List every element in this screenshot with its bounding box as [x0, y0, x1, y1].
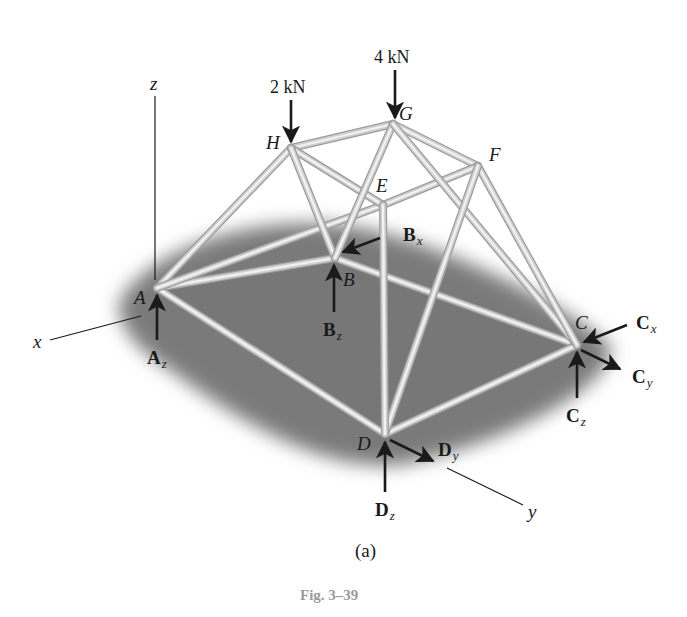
node-label-C: C: [575, 313, 588, 332]
member-ED: [383, 205, 385, 434]
reaction-symbol: C: [636, 312, 650, 333]
reaction-subscript: y: [453, 448, 459, 463]
node-label-G: G: [399, 104, 413, 123]
member-HG: [291, 124, 393, 148]
reaction-subscript: z: [390, 508, 395, 523]
reaction-subscript: x: [651, 321, 657, 336]
subfigure-label: (a): [355, 541, 376, 560]
reaction-label-Cx: Cx: [636, 313, 657, 335]
node-label-E: E: [376, 176, 388, 195]
reaction-subscript: z: [162, 356, 167, 371]
node-label-H: H: [266, 133, 280, 152]
reaction-subscript: y: [647, 375, 653, 390]
reaction-symbol: D: [438, 439, 452, 460]
truss-diagram: [0, 0, 687, 617]
reaction-symbol: B: [323, 319, 336, 340]
node-label-F: F: [489, 145, 501, 164]
reaction-symbol: A: [147, 347, 161, 368]
space-truss-figure: z x y A B C D E F G H 2 kN 4 kN Az Bz Bx…: [0, 0, 687, 617]
reaction-label-Dz: Dz: [375, 500, 395, 522]
reaction-symbol: C: [566, 405, 580, 426]
node-label-D: D: [357, 434, 371, 453]
y-axis-line: [447, 468, 523, 505]
reaction-subscript: x: [417, 233, 423, 248]
ground-shadow: [119, 223, 611, 465]
figure-caption: Fig. 3–39: [300, 588, 358, 603]
reaction-symbol: D: [375, 499, 389, 520]
node-label-B: B: [343, 270, 355, 289]
reaction-label-Cz: Cz: [566, 406, 586, 428]
node-label-A: A: [134, 288, 146, 307]
reaction-label-Cy: Cy: [632, 367, 653, 389]
reaction-label-Dy: Dy: [438, 440, 459, 462]
reaction-subscript: z: [581, 414, 586, 429]
load-label-H: 2 kN: [270, 78, 306, 96]
reaction-symbol: B: [403, 224, 416, 245]
load-label-G: 4 kN: [374, 48, 410, 66]
reaction-label-Bx: Bx: [403, 225, 422, 247]
reaction-label-Az: Az: [147, 348, 167, 370]
reaction-label-Bz: Bz: [323, 320, 342, 342]
reaction-symbol: C: [632, 366, 646, 387]
y-axis-label: y: [528, 502, 536, 521]
z-axis-label: z: [150, 74, 157, 93]
x-axis-label: x: [33, 332, 41, 351]
reaction-subscript: z: [337, 328, 342, 343]
